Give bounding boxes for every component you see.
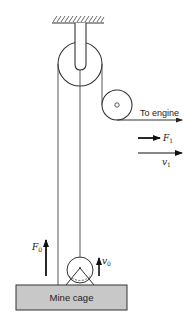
v0-label: v0 xyxy=(102,256,111,267)
f1-label: F1 xyxy=(162,133,173,144)
mine-cage-label: Mine cage xyxy=(50,292,94,303)
cables xyxy=(58,64,102,285)
ceiling-support xyxy=(52,16,104,23)
cage-pulley xyxy=(66,257,94,285)
pulley-bracket xyxy=(75,23,86,70)
pulley-diagram: To engine F1 v1 F0 v0 Mine cage xyxy=(0,0,194,323)
to-engine-label: To engine xyxy=(140,108,179,118)
f0-label: F0 xyxy=(31,242,42,253)
engine-pulley xyxy=(102,90,132,120)
v1-label: v1 xyxy=(162,157,171,168)
